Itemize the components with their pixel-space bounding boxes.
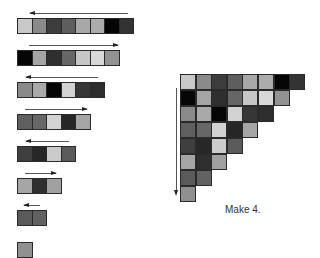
gray-square <box>180 122 196 138</box>
strip-row <box>17 242 32 258</box>
gray-square <box>32 146 48 162</box>
gray-square <box>75 50 91 66</box>
strip-row <box>17 50 119 66</box>
gray-square <box>180 154 196 170</box>
gray-square <box>32 114 48 130</box>
gray-square <box>196 106 212 122</box>
gray-square <box>196 90 212 106</box>
gray-square <box>90 50 106 66</box>
triangle-row <box>180 154 305 170</box>
left-arrow-icon <box>24 205 40 206</box>
gray-square <box>242 106 258 122</box>
gray-square <box>180 74 196 90</box>
gray-square <box>242 90 258 106</box>
down-arrow-icon <box>176 88 177 194</box>
gray-square <box>17 18 33 34</box>
gray-square <box>242 122 258 138</box>
caption: Make 4. <box>225 204 261 215</box>
gray-square <box>211 122 227 138</box>
gray-square <box>61 82 77 98</box>
gray-square <box>61 114 77 130</box>
left-arrow-icon <box>26 77 98 78</box>
strip-row <box>17 114 90 130</box>
gray-square <box>17 178 33 194</box>
gray-square <box>258 74 274 90</box>
gray-square <box>180 170 196 186</box>
gray-square <box>46 146 62 162</box>
gray-square <box>289 74 305 90</box>
gray-square <box>211 74 227 90</box>
gray-square <box>90 82 106 98</box>
gray-square <box>17 114 33 130</box>
gray-square <box>104 18 120 34</box>
left-arrow-icon <box>30 13 128 14</box>
strip-row <box>17 18 133 34</box>
stacked-triangle-grid <box>180 74 305 202</box>
gray-square <box>196 74 212 90</box>
gray-square <box>46 50 62 66</box>
gray-square <box>227 74 243 90</box>
gray-square <box>196 154 212 170</box>
gray-square <box>75 114 91 130</box>
gray-square <box>46 178 62 194</box>
gray-square <box>196 138 212 154</box>
gray-square <box>17 146 33 162</box>
triangle-row <box>180 170 305 186</box>
gray-square <box>32 82 48 98</box>
left-arrow-icon <box>26 141 69 142</box>
gray-square <box>211 154 227 170</box>
right-arrow-icon <box>29 45 118 46</box>
gray-square <box>46 114 62 130</box>
gray-square <box>258 106 274 122</box>
gray-square <box>17 242 33 258</box>
gray-square <box>46 82 62 98</box>
gray-square <box>211 138 227 154</box>
gray-square <box>227 106 243 122</box>
triangle-row <box>180 138 305 154</box>
gray-square <box>180 186 196 202</box>
triangle-row <box>180 90 305 106</box>
gray-square <box>17 50 33 66</box>
gray-square <box>227 138 243 154</box>
gray-square <box>32 178 48 194</box>
gray-square <box>180 90 196 106</box>
gray-square <box>274 74 290 90</box>
gray-square <box>180 106 196 122</box>
gray-square <box>32 18 48 34</box>
gray-square <box>104 50 120 66</box>
triangle-row <box>180 106 305 122</box>
gray-square <box>32 210 48 226</box>
strip-row <box>17 146 75 162</box>
right-arrow-icon <box>25 173 56 174</box>
gray-square <box>227 122 243 138</box>
strip-row <box>17 178 61 194</box>
right-arrow-icon <box>25 109 87 110</box>
gray-square <box>61 18 77 34</box>
triangle-row <box>180 122 305 138</box>
gray-square <box>90 18 106 34</box>
triangle-row <box>180 186 305 202</box>
strip-row <box>17 210 46 226</box>
gray-square <box>242 74 258 90</box>
gray-square <box>32 50 48 66</box>
gray-square <box>119 18 135 34</box>
gray-square <box>196 122 212 138</box>
gray-square <box>61 50 77 66</box>
gray-square <box>211 106 227 122</box>
gray-square <box>211 90 227 106</box>
triangle-row <box>180 74 305 90</box>
gray-square <box>75 82 91 98</box>
gray-square <box>274 90 290 106</box>
gray-square <box>227 90 243 106</box>
gray-square <box>17 210 33 226</box>
gray-square <box>180 138 196 154</box>
gray-square <box>258 90 274 106</box>
gray-square <box>196 170 212 186</box>
gray-square <box>17 82 33 98</box>
strip-row <box>17 82 104 98</box>
gray-square <box>75 18 91 34</box>
gray-square <box>61 146 77 162</box>
gray-square <box>46 18 62 34</box>
